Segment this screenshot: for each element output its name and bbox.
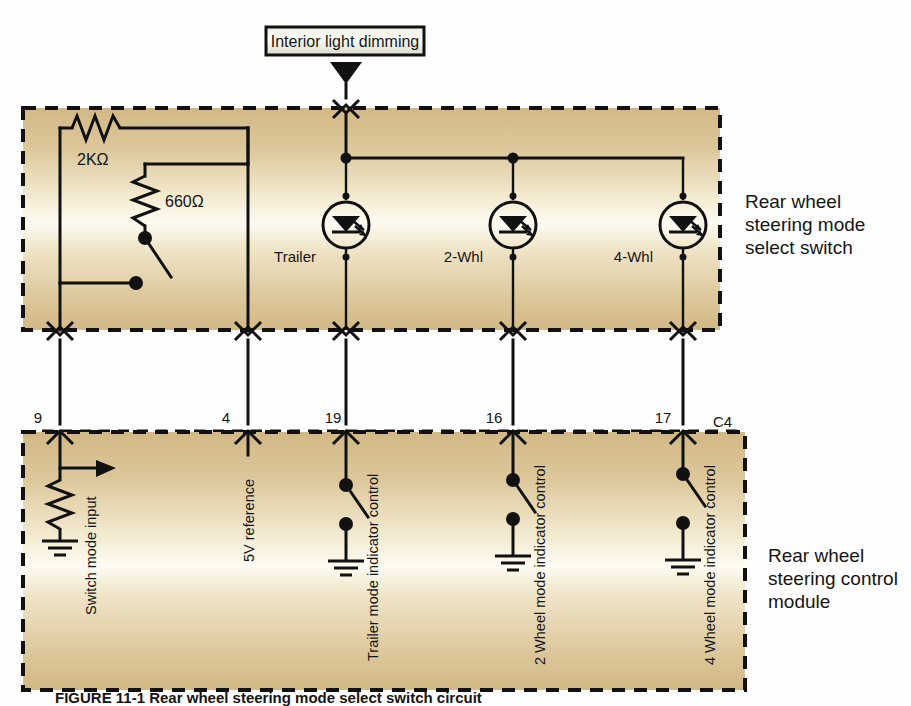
pin-number-16: 16 [486, 409, 503, 426]
module-block-title-line2: steering control [768, 568, 898, 589]
source-box-label: Interior light dimming [271, 33, 420, 50]
switch-lower-contact[interactable] [129, 276, 143, 290]
wiring-diagram-canvas: Interior light dimming 2KΩ [0, 0, 911, 706]
source-arrow-icon [330, 62, 362, 84]
four-wheel-led-cathode-dot [680, 254, 687, 261]
pin4-signal-label: 5V reference [241, 479, 257, 562]
four-wheel-led-anode-dot [680, 193, 687, 200]
switch-block-title-line2: steering mode [745, 214, 865, 235]
interior-light-dimming-source: Interior light dimming [266, 27, 424, 98]
two-wheel-led-anode-dot [510, 193, 517, 200]
trailer-led-label: Trailer [274, 248, 316, 265]
switch-block-fill [23, 108, 720, 330]
connector-name-c4: C4 [713, 413, 732, 430]
pin-number-4: 4 [222, 409, 230, 426]
two-wheel-led-cathode-dot [510, 254, 517, 261]
resistor-660-value: 660Ω [165, 193, 204, 210]
module-block-title-line3: module [768, 591, 830, 612]
pin-number-19: 19 [325, 409, 342, 426]
pin-number-17: 17 [655, 409, 672, 426]
pin-number-9: 9 [34, 409, 42, 426]
pin16-signal-label: 2 Wheel mode indicator control [532, 465, 548, 665]
switch-block-title-line3: select switch [745, 237, 853, 258]
trailer-led-anode-dot [343, 193, 350, 200]
circuit-diagram-page: Interior light dimming 2KΩ [0, 0, 911, 706]
four-wheel-led-label: 4-Whl [614, 248, 653, 265]
pin17-signal-label: 4 Wheel mode indicator control [702, 465, 718, 665]
two-wheel-led-label: 2-Whl [444, 248, 483, 265]
resistor-2k-value: 2KΩ [77, 151, 109, 168]
figure-caption: FIGURE 11-1 Rear wheel steering mode sel… [55, 689, 482, 706]
pin9-signal-label: Switch mode input [83, 497, 99, 615]
trailer-led-cathode-dot [343, 254, 350, 261]
switch-block-title-line1: Rear wheel [745, 191, 841, 212]
pin19-signal-label: Trailer mode indicator control [365, 474, 381, 661]
module-block-fill [23, 432, 745, 690]
module-block-title-line1: Rear wheel [768, 545, 864, 566]
